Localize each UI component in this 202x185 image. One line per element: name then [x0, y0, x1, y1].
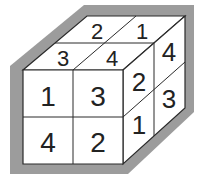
right-cell-top-back: 4 — [162, 37, 176, 67]
cube-figure: 2 1 3 4 1 3 4 2 2 4 1 3 — [0, 0, 202, 185]
right-cell-top-front: 2 — [132, 67, 146, 97]
front-cell-r1c0: 4 — [40, 127, 56, 158]
front-cell-r1c1: 2 — [90, 127, 106, 158]
right-cell-bottom-front: 1 — [132, 110, 146, 140]
top-cell-back-left: 2 — [91, 19, 103, 44]
front-cell-r0c0: 1 — [40, 81, 56, 112]
right-cell-bottom-back: 3 — [162, 84, 176, 114]
front-cell-r0c1: 3 — [90, 81, 106, 112]
top-cell-back-right: 1 — [136, 19, 148, 44]
top-cell-front-right: 4 — [106, 46, 118, 71]
top-cell-front-left: 3 — [57, 46, 69, 71]
